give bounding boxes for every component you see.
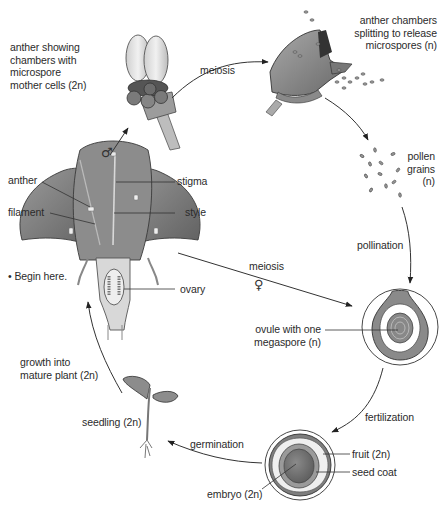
label-line: chambers with [10,54,87,67]
seed-coat-label: seed coat [352,466,397,479]
label-line: ovule with one [254,323,321,336]
fruit-label: fruit (2n) [352,448,390,461]
pollen-grains-label: pollen grains (n) [407,150,435,188]
stigma-label: stigma [177,175,207,188]
begin-here-label: • Begin here. [8,270,67,283]
germination-label: germination [190,438,244,451]
label-line: microspores (n) [354,39,437,52]
meiosis-label-middle: meiosis [249,260,284,273]
male-symbol: ♂ [101,146,113,159]
anther-chambers-label: anther showing chambers with microspore … [10,41,87,91]
label-line: splitting to release [354,27,437,40]
label-line: microspore [10,66,87,79]
ovule-illustration [325,289,438,365]
label-line: pollen [407,150,435,163]
label-line: mother cells (2n) [10,79,87,92]
female-symbol: ♀ [254,278,264,291]
anther-splitting-label: anther chambers splitting to release mic… [354,14,437,52]
pollination-label: pollination [357,239,403,252]
growth-label: growth into mature plant (2n) [20,356,98,381]
label-line: anther showing [10,41,87,54]
anther-label: anther [8,174,37,187]
seedling-label: seedling (2n) [82,416,141,429]
ovule-label: ovule with one megaspore (n) [254,323,321,348]
label-line: grains [407,163,435,176]
plant-life-cycle-diagram: anther showing chambers with microspore … [0,0,445,505]
fertilization-label: fertilization [365,411,414,424]
style-label: style [185,206,206,219]
filament-label: filament [8,206,44,219]
seed-illustration [262,430,350,500]
meiosis-label-top: meiosis [200,64,235,77]
label-line: mature plant (2n) [20,369,98,382]
label-line: megaspore (n) [254,336,321,349]
label-line: anther chambers [354,14,437,27]
flower-illustration [20,141,200,340]
anther-illustration [126,35,180,150]
label-line: (n) [407,175,435,188]
label-line: growth into [20,356,98,369]
arrow-to-pollen [325,98,368,140]
ovary-label: ovary [180,283,205,296]
embryo-label: embryo (2n) [207,488,263,501]
pollination-arrow [402,207,411,283]
pollen-grains-illustration [359,148,401,198]
